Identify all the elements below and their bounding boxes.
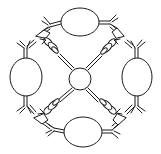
clamp-top-left <box>36 30 59 54</box>
clamp-top-right <box>100 28 124 55</box>
clamp-bottom-left <box>34 98 60 124</box>
oval-left <box>10 58 42 96</box>
oval-bottom <box>64 117 102 147</box>
oval-right <box>122 58 152 96</box>
center-node <box>69 68 91 90</box>
ring-complex-diagram <box>0 0 161 154</box>
clamp-bottom-right <box>99 98 126 125</box>
oval-top <box>61 8 99 36</box>
